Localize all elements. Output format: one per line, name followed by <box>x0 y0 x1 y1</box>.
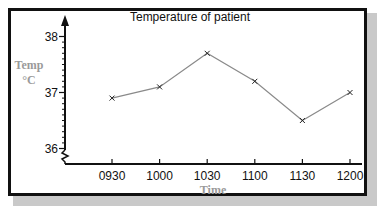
x-tick-label: 1000 <box>146 169 173 183</box>
y-axis-break-icon <box>62 150 68 164</box>
x-tick-label: 0930 <box>99 169 126 183</box>
x-marker-icon <box>300 118 305 123</box>
x-marker-icon <box>252 79 257 84</box>
x-tick-label: 1030 <box>194 169 221 183</box>
x-marker-icon <box>348 90 353 95</box>
y-axis-label: Temp °C <box>15 58 44 87</box>
x-axis-label: Time <box>200 183 227 197</box>
series-line <box>112 53 350 120</box>
x-tick-label: 1200 <box>337 169 364 183</box>
x-tick-label: 1130 <box>289 169 315 183</box>
y-axis-label-line2: °C <box>22 73 35 87</box>
x-tick-label: 1100 <box>242 169 268 183</box>
x-axis: 093010001030110011301200 <box>65 159 364 183</box>
x-marker-icon <box>205 51 210 56</box>
y-axis: 363738 <box>45 15 69 164</box>
y-tick-label: 36 <box>45 142 59 156</box>
chart-title: Temperature of patient <box>130 10 251 24</box>
line-chart: Temperature of patient Temp °C Time 3637… <box>0 0 381 210</box>
y-axis-label-line1: Temp <box>15 58 44 72</box>
y-tick-label: 38 <box>45 30 59 44</box>
y-tick-label: 37 <box>45 86 59 100</box>
y-axis-arrow-icon <box>61 15 69 26</box>
data-series <box>110 51 353 123</box>
